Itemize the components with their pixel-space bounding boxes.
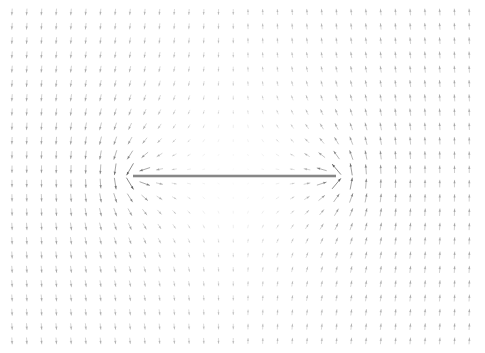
vector-field-plot (0, 0, 485, 353)
quiver-figure (0, 0, 485, 353)
